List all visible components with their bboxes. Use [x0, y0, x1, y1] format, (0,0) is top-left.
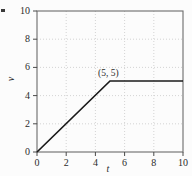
y-axis-label: v	[6, 77, 16, 81]
y-tick-label-2: 2	[14, 119, 30, 129]
x-axis-ticks	[37, 152, 183, 156]
y-tick-label-6: 6	[14, 62, 30, 72]
y-tick-label-8: 8	[14, 34, 30, 44]
x-tick-label-4: 4	[93, 158, 98, 168]
y-tick-label-10: 10	[14, 6, 30, 16]
x-axis-label: t	[107, 164, 110, 174]
x-tick-label-10: 10	[178, 158, 188, 168]
x-tick-label-6: 6	[122, 158, 127, 168]
point-annotation-label: (5, 5)	[98, 68, 119, 78]
x-tick-label-0: 0	[35, 158, 40, 168]
y-tick-label-4: 4	[14, 91, 30, 101]
x-tick-label-8: 8	[151, 158, 156, 168]
y-tick-label-0: 0	[14, 147, 30, 157]
y-axis-ticks	[33, 11, 37, 152]
x-tick-label-2: 2	[64, 158, 69, 168]
chart-figure: 0 2 4 6 8 10 0 2 4 6 8 10 v t (5, 5)	[0, 0, 192, 176]
